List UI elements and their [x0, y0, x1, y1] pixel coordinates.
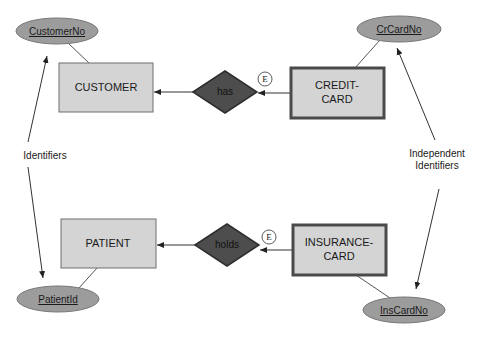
entity-credit-card: CREDIT- CARD: [291, 68, 384, 118]
attribute-customerno-label: CustomerNo: [29, 26, 86, 37]
arrow-identifiers-up: [28, 56, 47, 142]
attribute-inscardno: InsCardNo: [363, 297, 445, 323]
connector-customerno-customer: [68, 43, 89, 63]
entity-credit-card-label-line2: CARD: [321, 93, 352, 105]
existence-marker-has: E: [258, 72, 272, 86]
connector-crcardno-creditcard: [355, 40, 380, 68]
relationship-holds: holds: [195, 224, 259, 266]
attribute-patientid-label: PatientId: [38, 294, 77, 305]
connector-inscardno-insurancecard: [356, 275, 390, 298]
entity-insurance-card-label-line1: INSURANCE-: [305, 236, 374, 248]
entity-insurance-card: INSURANCE- CARD: [293, 225, 386, 275]
arrow-identifiers-down: [28, 167, 43, 278]
relationship-has: has: [193, 71, 257, 113]
existence-marker-holds-label: E: [266, 232, 272, 242]
er-diagram: CustomerNo CrCardNo PatientId InsCardNo …: [0, 0, 479, 337]
relationship-holds-label: holds: [215, 239, 239, 250]
relationship-has-label: has: [217, 86, 233, 97]
annotation-identifiers: Identifiers: [23, 150, 66, 161]
entity-credit-card-label-line1: CREDIT-: [315, 79, 359, 91]
connector-patientid-patient: [79, 268, 97, 288]
annotation-independent-line2: Identifiers: [415, 160, 458, 171]
entity-patient: PATIENT: [61, 219, 156, 268]
existence-marker-holds: E: [262, 230, 276, 244]
entity-insurance-card-label-line2: CARD: [323, 250, 354, 262]
entity-patient-label: PATIENT: [86, 237, 131, 249]
attribute-customerno: CustomerNo: [16, 18, 98, 44]
attribute-crcardno: CrCardNo: [357, 16, 441, 42]
arrow-independent-down: [416, 189, 439, 289]
entity-customer-label: CUSTOMER: [75, 81, 138, 93]
annotation-independent-line1: Independent: [409, 148, 465, 159]
attribute-inscardno-label: InsCardNo: [380, 305, 428, 316]
existence-marker-has-label: E: [262, 74, 268, 84]
entity-customer: CUSTOMER: [59, 63, 153, 112]
arrow-independent-up: [397, 48, 435, 140]
attribute-patientid: PatientId: [17, 286, 99, 312]
attribute-crcardno-label: CrCardNo: [376, 24, 421, 35]
